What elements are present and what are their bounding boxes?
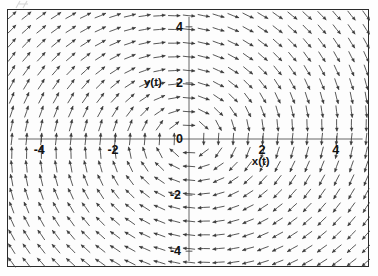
field-arrow-head [169, 192, 172, 195]
field-arrow-head [160, 121, 163, 124]
field-arrow-head [12, 52, 15, 55]
field-arrow-head [177, 69, 180, 72]
field-arrow-head [173, 133, 176, 136]
field-arrow-head [235, 85, 238, 88]
field-arrow-head [192, 110, 195, 113]
field-arrow-head [366, 45, 369, 48]
field-arrow-head [245, 168, 248, 171]
field-arrow-head [228, 248, 231, 251]
field-arrow-head [69, 161, 72, 164]
field-arrow-head [213, 248, 216, 251]
field-arrow-head [243, 208, 246, 211]
field-arrow-head [132, 14, 135, 17]
field-arrow-head [147, 41, 150, 44]
field-arrow-head [25, 161, 28, 164]
field-arrow-head [154, 233, 157, 236]
field-arrow-head [70, 120, 73, 123]
field-arrow-head [183, 192, 186, 195]
field-arrow-head [192, 124, 195, 127]
field-arrow-head [352, 58, 355, 61]
field-arrow-head [272, 262, 275, 265]
field-arrow-head [304, 195, 307, 198]
field-arrow-head [231, 154, 234, 157]
field-arrow-head [305, 142, 308, 145]
field-arrow-head [366, 59, 369, 62]
field-arrow-head [198, 179, 201, 182]
field-arrow-head [258, 248, 261, 251]
field-arrow-head [337, 58, 340, 61]
field-arrow-head [139, 246, 142, 249]
field-arrow-head [336, 114, 339, 117]
field-arrow-head [279, 16, 282, 19]
field-arrow-head [24, 175, 27, 178]
field-arrow-head [71, 80, 74, 83]
field-arrow-head [85, 120, 88, 123]
field-arrow-head [140, 219, 143, 222]
field-arrow-head [84, 133, 87, 136]
field-arrow-head [220, 84, 223, 87]
field-arrow-head [81, 259, 84, 262]
field-arrow-head [162, 14, 165, 17]
field-arrow-head [41, 93, 44, 96]
field-arrow-head [192, 14, 195, 17]
field-arrow-head [26, 106, 29, 109]
field-arrow-head [96, 245, 99, 248]
field-arrow-head [154, 205, 157, 208]
field-arrow-head [87, 13, 90, 16]
field-arrow-head [183, 165, 186, 168]
field-arrow-head [321, 114, 324, 117]
field-arrow-head [219, 127, 222, 130]
field-arrow-head [40, 133, 43, 136]
field-arrow-head [221, 42, 224, 45]
field-arrow-head [143, 133, 146, 136]
field-arrow-head [101, 93, 104, 96]
field-arrow-head [351, 100, 354, 103]
field-arrow-head [274, 181, 277, 184]
field-arrow-head [302, 262, 305, 265]
field-arrow-head [24, 216, 27, 219]
field-arrow-head [350, 142, 353, 145]
field-arrow-head [145, 120, 148, 123]
field-arrow-head [198, 193, 201, 196]
field-arrow-head [98, 161, 101, 164]
field-arrow-head [117, 54, 120, 57]
field-arrow-head [139, 233, 142, 236]
field-arrow-head [235, 43, 238, 46]
field-arrow-head [117, 27, 120, 30]
scan-artifact [14, 0, 36, 9]
field-arrow-head [249, 71, 252, 74]
field-arrow-head [213, 180, 216, 183]
field-arrow-head [364, 155, 367, 158]
field-arrow-head [272, 249, 275, 252]
field-arrow-head [83, 189, 86, 192]
field-arrow-head [206, 70, 209, 73]
field-arrow-head [213, 234, 216, 237]
field-arrow-head [307, 86, 310, 89]
field-arrow-head [228, 194, 231, 197]
field-arrow-head [305, 168, 308, 171]
field-arrow-head [348, 209, 351, 212]
field-arrow-head [25, 133, 28, 136]
field-arrow-head [366, 86, 369, 89]
field-arrow-head [169, 205, 172, 208]
field-arrow-head [334, 182, 337, 185]
field-arrow-head [157, 148, 160, 151]
field-arrow-head [84, 147, 87, 150]
field-arrow-head [206, 42, 209, 45]
field-arrow-head [334, 168, 337, 171]
field-arrow-head [289, 182, 292, 185]
field-arrow-head [320, 168, 323, 171]
field-arrow-head [139, 260, 142, 263]
field-arrow-head [11, 106, 14, 109]
field-arrow-head [99, 147, 102, 150]
field-arrow-head [128, 147, 131, 150]
field-arrow-head [198, 247, 201, 250]
field-arrow-head [366, 72, 369, 75]
field-arrow-head [112, 175, 115, 178]
field-arrow-head [183, 261, 186, 264]
field-arrow-head [41, 106, 44, 109]
field-arrow-head [262, 114, 265, 117]
field-arrow-head [220, 70, 223, 73]
field-arrow-head [322, 86, 325, 89]
field-arrow-head [264, 16, 267, 19]
